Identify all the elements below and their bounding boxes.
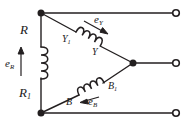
label-phase-r: R (20, 23, 28, 38)
label-phase-y: Y (92, 47, 98, 58)
label-phase-b: B (66, 97, 72, 108)
label-phase-r1: R1 (19, 86, 31, 101)
terminal-bottom[interactable] (173, 110, 180, 117)
label-emf-r: eR (5, 58, 14, 71)
coil-r (41, 47, 48, 79)
node-bottom-left (38, 110, 45, 117)
label-phase-y1: Y1 (62, 34, 71, 45)
terminal-middle[interactable] (173, 60, 180, 67)
terminal-top[interactable] (173, 10, 180, 17)
circuit-diagram: R R1 eR Y1 Y eY B1 B eB (0, 0, 188, 127)
wire-diagonal-upper-right (100, 46, 133, 63)
arrow-emf-r (18, 47, 24, 76)
node-center-right (130, 60, 137, 67)
wire-diagonal-lower-left (41, 95, 79, 113)
node-top-left (38, 10, 45, 17)
label-emf-y: eY (94, 14, 103, 27)
coil-b (76, 77, 104, 95)
label-emf-b: eB (88, 96, 97, 109)
coil-b-group (76, 77, 104, 95)
wire-diagonal-upper-left (41, 13, 76, 32)
label-phase-b1: B1 (108, 81, 117, 92)
